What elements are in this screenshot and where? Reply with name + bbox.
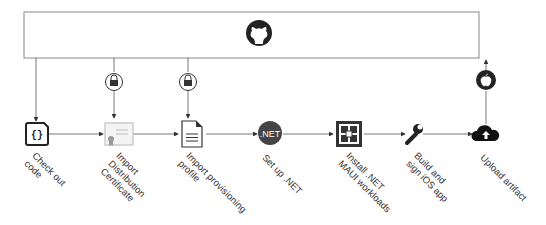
- dotnet-icon: .NET: [258, 121, 282, 145]
- certificate-icon: [105, 123, 133, 146]
- lock-icon: [180, 74, 197, 91]
- svg-text:.NET: .NET: [260, 129, 281, 139]
- cloud-upload-icon: [471, 125, 499, 141]
- workloads-icon: [336, 121, 362, 147]
- wrench-icon: [407, 124, 423, 143]
- workflow-diagram: {} .NET: [0, 0, 546, 225]
- document-icon: [182, 121, 202, 147]
- code-file-icon: {}: [26, 123, 48, 145]
- github-icon: [246, 20, 272, 46]
- svg-text:{}: {}: [31, 130, 43, 141]
- lock-icon: [106, 74, 123, 91]
- apple-icon: [476, 70, 496, 90]
